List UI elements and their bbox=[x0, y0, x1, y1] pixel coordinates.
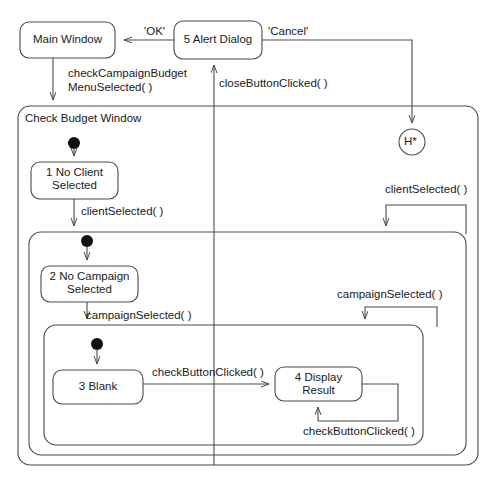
initial-state-dot-client-region bbox=[81, 235, 93, 247]
transition-client-region-self-loop bbox=[386, 205, 466, 234]
transition-campaign-region-self-loop bbox=[365, 307, 437, 327]
transition-label-check-button-clicked-loop: checkButtonClicked( ) bbox=[303, 425, 415, 438]
state-label-display-result-line2: Result bbox=[275, 384, 362, 398]
transition-label-campaign-selected-loop: campaignSelected( ) bbox=[337, 288, 442, 301]
state-label-blank: 3 Blank bbox=[53, 380, 143, 394]
transition-label-client-selected: clientSelected( ) bbox=[81, 205, 163, 218]
transition-label-campaign-selected: campaignSelected( ) bbox=[86, 309, 191, 322]
transition-label-check-campaign-budget-line2: MenuSelected( ) bbox=[68, 81, 152, 94]
state-diagram-canvas: Main Window ===== --> Check Budget Windo… bbox=[0, 0, 495, 481]
container-label-check-budget-window: Check Budget Window bbox=[25, 112, 141, 124]
state-label-alert-dialog: 5 Alert Dialog bbox=[174, 33, 262, 47]
transition-label-close-button-clicked: closeButtonClicked( ) bbox=[219, 77, 328, 90]
state-label-no-client-selected-line2: Selected bbox=[31, 179, 118, 193]
transition-label-cancel: 'Cancel' bbox=[268, 25, 308, 38]
history-pseudostate-label: H* bbox=[404, 135, 417, 147]
state-label-display-result-line1: 4 Display bbox=[275, 371, 362, 385]
state-label-no-campaign-selected-line2: Selected bbox=[41, 283, 138, 297]
transition-label-ok: 'OK' bbox=[144, 25, 165, 38]
initial-state-dot-campaign-region bbox=[91, 338, 103, 350]
initial-state-dot-check-budget bbox=[68, 137, 80, 149]
transition-label-check-campaign-budget-line1: checkCampaignBudget bbox=[68, 67, 187, 80]
state-label-no-campaign-selected-line1: 2 No Campaign bbox=[41, 270, 138, 284]
state-label-no-client-selected-line1: 1 No Client bbox=[31, 166, 118, 180]
state-label-main-window: Main Window bbox=[20, 33, 115, 47]
transition-label-client-selected-loop: clientSelected( ) bbox=[385, 183, 467, 196]
transition-label-check-button-clicked: checkButtonClicked( ) bbox=[152, 366, 264, 379]
